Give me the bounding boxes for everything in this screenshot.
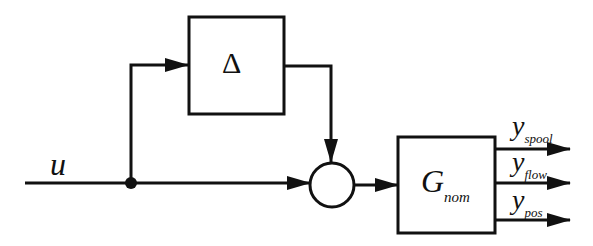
block-diagram: u Δ Gnom yspool yflow ypos [0, 0, 593, 246]
diagram-lines [0, 0, 593, 246]
output-flow-main: y [512, 146, 524, 177]
plant-label: Gnom [421, 165, 470, 197]
plant-label-sub: nom [444, 189, 470, 205]
summing-junction [310, 163, 354, 207]
branch-point [125, 177, 137, 189]
branch-to-delta-line [131, 65, 188, 183]
output-spool-label: yspool [512, 112, 553, 140]
output-pos-label: ypos [512, 186, 543, 214]
output-flow-label: yflow [512, 148, 547, 176]
delta-label: Δ [222, 48, 241, 78]
delta-output-line [284, 66, 331, 162]
output-spool-main: y [512, 110, 524, 141]
input-label: u [50, 148, 66, 180]
output-flow-sub: flow [524, 167, 546, 182]
output-spool-sub: spool [524, 131, 552, 146]
output-pos-sub: pos [524, 205, 542, 220]
output-pos-main: y [512, 184, 524, 215]
plant-label-main: G [421, 163, 444, 199]
